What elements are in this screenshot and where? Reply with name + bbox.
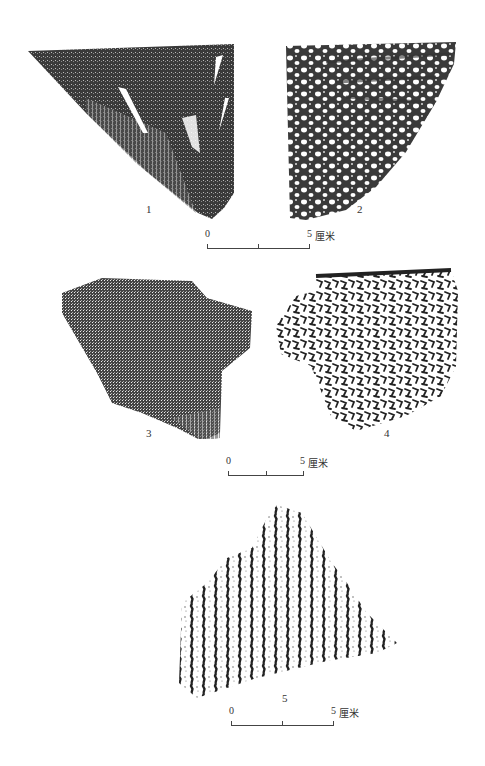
sherd-2-rubbing xyxy=(286,42,458,222)
scalebar-1: 0 5 厘米 xyxy=(207,228,317,258)
sherd-1-rubbing xyxy=(26,43,238,221)
scalebar-1-unit: 厘米 xyxy=(315,228,335,243)
scalebar-3-unit: 厘米 xyxy=(339,705,359,720)
sherd-2-label: 2 xyxy=(357,203,363,215)
scalebar-2-zero: 0 xyxy=(226,455,231,466)
sherd-4-label: 4 xyxy=(384,427,390,439)
scalebar-1-zero: 0 xyxy=(205,228,210,239)
scalebar-2: 0 5 厘米 xyxy=(228,455,338,485)
scalebar-2-unit: 厘米 xyxy=(308,455,328,470)
scalebar-3: 0 5 厘米 xyxy=(231,705,381,735)
scalebar-1-five: 5 xyxy=(307,228,312,239)
sherd-3-rubbing xyxy=(52,273,256,439)
sherd-3-label: 3 xyxy=(146,427,152,439)
scalebar-2-five: 5 xyxy=(300,455,305,466)
sherd-4-rubbing xyxy=(276,266,460,434)
scalebar-3-five: 5 xyxy=(331,705,336,716)
scalebar-3-zero: 0 xyxy=(229,705,234,716)
sherd-5-rubbing xyxy=(177,503,402,698)
sherd-5-label: 5 xyxy=(282,692,288,704)
sherd-1-label: 1 xyxy=(146,203,152,215)
